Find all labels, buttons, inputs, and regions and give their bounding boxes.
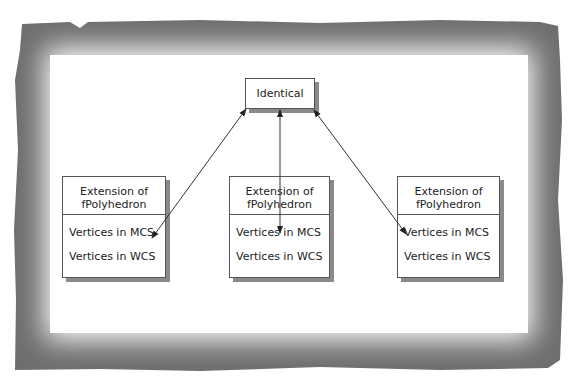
title-line-1: Extension of: [63, 185, 165, 198]
node-title: Extension of fPolyhedron: [398, 177, 499, 215]
attr-vertices-mcs: Vertices in MCS: [398, 226, 499, 239]
title-line-2: fPolyhedron: [398, 198, 499, 211]
attr-vertices-wcs: Vertices in WCS: [398, 250, 499, 263]
identical-node: Identical: [245, 78, 315, 109]
title-line-1: Extension of: [398, 185, 499, 198]
node-title: Extension of fPolyhedron: [63, 177, 165, 215]
attr-vertices-wcs: Vertices in WCS: [63, 250, 165, 263]
polyhedron-extension-node-middle: Extension of fPolyhedron Vertices in MCS…: [229, 176, 330, 278]
polyhedron-extension-node-right: Extension of fPolyhedron Vertices in MCS…: [397, 176, 500, 278]
attr-vertices-mcs: Vertices in MCS: [63, 226, 165, 239]
attr-vertices-wcs: Vertices in WCS: [230, 250, 329, 263]
title-line-2: fPolyhedron: [63, 198, 165, 211]
polyhedron-extension-node-left: Extension of fPolyhedron Vertices in MCS…: [62, 176, 166, 278]
title-line-1: Extension of: [230, 185, 329, 198]
title-line-2: fPolyhedron: [230, 198, 329, 211]
attr-vertices-mcs: Vertices in MCS: [230, 226, 329, 239]
node-title: Extension of fPolyhedron: [230, 177, 329, 215]
